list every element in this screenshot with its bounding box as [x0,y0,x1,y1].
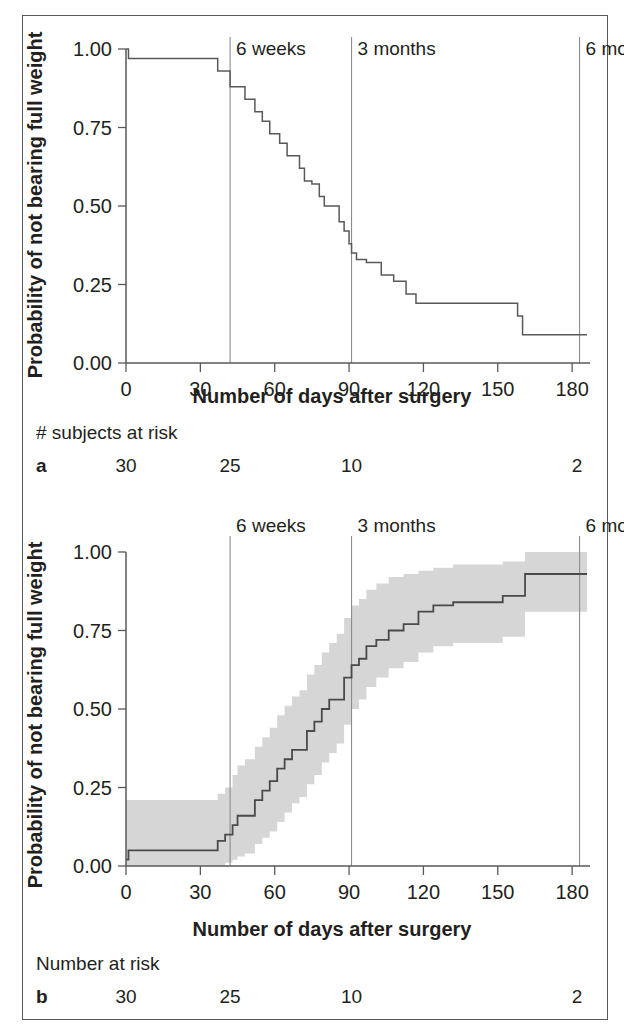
panel-a-plot: 0.000.250.500.751.000306090120150180 6 w… [22,15,608,500]
svg-text:30: 30 [189,881,211,903]
panel-b-plot: 0.000.250.500.751.000306090120150180 6 w… [22,500,608,1020]
svg-text:120: 120 [407,881,440,903]
svg-text:3 months: 3 months [358,38,436,59]
x-axis-title-b: Number of days after surgery [193,918,473,940]
svg-text:2: 2 [572,986,583,1007]
km-curve-a [126,49,587,335]
annotations-a: 6 weeks3 months6 months [236,38,624,59]
svg-text:6 months: 6 months [586,38,624,59]
svg-text:25: 25 [220,986,241,1007]
risk-table-a: 3025102 [115,455,582,476]
svg-text:25: 25 [220,455,241,476]
svg-text:180: 180 [555,378,588,400]
svg-text:0.25: 0.25 [73,274,112,296]
svg-text:1.00: 1.00 [73,541,112,563]
panel-a: 0.000.250.500.751.000306090120150180 6 w… [22,15,608,500]
risk-table-title-b: Number at risk [36,953,160,974]
y-axis-title-a: Probability of not bearing full weight [24,31,46,378]
svg-text:6 weeks: 6 weeks [236,515,306,536]
svg-text:0.75: 0.75 [73,117,112,139]
svg-text:0: 0 [120,881,131,903]
svg-text:150: 150 [481,378,514,400]
svg-text:1.00: 1.00 [73,38,112,60]
svg-text:30: 30 [115,986,136,1007]
panel-label-a: a [36,455,47,476]
svg-text:0.25: 0.25 [73,777,112,799]
x-axis-title-a: Number of days after surgery [193,385,473,407]
axes-a: 0.000.250.500.751.000306090120150180 [73,38,590,400]
figure-container: 0.000.250.500.751.000306090120150180 6 w… [0,0,624,1032]
reference-lines-a [230,37,579,363]
svg-text:0: 0 [120,378,131,400]
panel-b: 0.000.250.500.751.000306090120150180 6 w… [22,500,608,1020]
y-axis-title-b: Probability of not bearing full weight [24,541,46,888]
svg-text:0.75: 0.75 [73,620,112,642]
svg-text:0.00: 0.00 [73,855,112,877]
svg-text:6 weeks: 6 weeks [236,38,306,59]
svg-text:10: 10 [341,455,362,476]
panel-label-b: b [36,986,48,1007]
annotations-b: 6 weeks3 months6 months [236,515,624,536]
svg-text:2: 2 [572,455,583,476]
svg-text:3 months: 3 months [358,515,436,536]
risk-table-b: 3025102 [115,986,582,1007]
svg-text:60: 60 [264,881,286,903]
confidence-band-b [126,552,587,866]
svg-text:90: 90 [338,881,360,903]
svg-text:0.50: 0.50 [73,195,112,217]
svg-text:30: 30 [115,455,136,476]
svg-text:180: 180 [555,881,588,903]
svg-text:6 months: 6 months [586,515,624,536]
risk-table-title-a: # subjects at risk [36,422,178,443]
svg-text:0.50: 0.50 [73,698,112,720]
svg-text:0.00: 0.00 [73,352,112,374]
svg-text:10: 10 [341,986,362,1007]
svg-text:150: 150 [481,881,514,903]
